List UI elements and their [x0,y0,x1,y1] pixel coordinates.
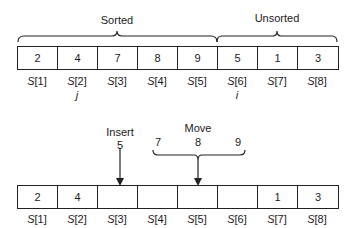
index-label: S[4] [137,213,177,225]
bottom-array: 2 4 1 3 [17,185,339,209]
array-cell: 1 [258,47,298,69]
array-cell: 3 [298,47,338,69]
array-cell [218,186,258,208]
index-label: S[3] [97,213,137,225]
pointer-i: i [217,89,257,101]
array-cell: 4 [58,47,98,69]
move-label: Move [178,122,218,134]
index-label: S[2] [57,213,97,225]
index-label: S[1] [17,213,57,225]
index-label: S[6] [217,213,257,225]
unsorted-brace [217,31,337,42]
array-cell [98,186,138,208]
array-cell [178,186,218,208]
insert-value: 5 [100,139,140,151]
index-label: S[2] [57,75,97,87]
move-brace [153,150,245,160]
array-cell: 3 [298,186,338,208]
index-label: S[8] [297,213,337,225]
index-label: S[1] [17,75,57,87]
array-cell: 2 [18,186,58,208]
array-cell: 2 [18,47,58,69]
array-cell: 5 [218,47,258,69]
array-cell: 8 [138,47,178,69]
index-label: S[3] [97,75,137,87]
array-cell: 7 [98,47,138,69]
insert-label: Insert [100,126,140,138]
move-value: 9 [228,136,248,148]
array-cell: 1 [258,186,298,208]
move-value: 8 [188,136,208,148]
array-cell [138,186,178,208]
pointer-j: j [57,89,97,101]
move-value: 7 [148,136,168,148]
unsorted-label: Unsorted [247,12,307,24]
index-label: S[7] [257,75,297,87]
index-label: S[4] [137,75,177,87]
index-label: S[8] [297,75,337,87]
index-label: S[5] [177,75,217,87]
top-array: 2 4 7 8 9 5 1 3 [17,46,339,70]
sorted-label: Sorted [97,14,137,26]
index-label: S[6] [217,75,257,87]
index-label: S[5] [177,213,217,225]
sorted-brace [18,31,217,42]
array-cell: 4 [58,186,98,208]
array-cell: 9 [178,47,218,69]
index-label: S[7] [257,213,297,225]
